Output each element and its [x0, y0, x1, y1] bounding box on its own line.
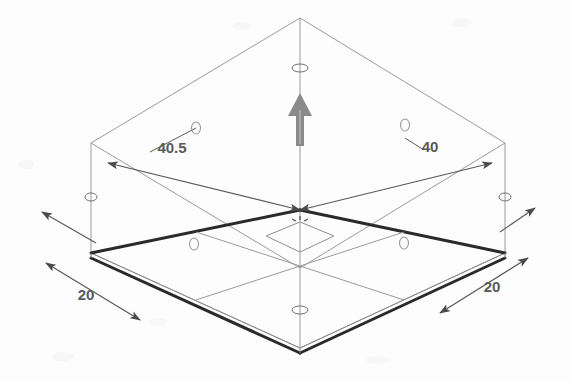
dim-label-20-left[interactable]: 20: [78, 286, 95, 303]
dim-label-40-5[interactable]: 40.5: [157, 139, 186, 156]
dimension-upper-left[interactable]: 40.5: [108, 128, 300, 210]
dim-line-40-5[interactable]: [108, 163, 300, 210]
cad-drawing-canvas[interactable]: 40.5 40 20 20: [0, 0, 572, 381]
vertical-drag-arrow[interactable]: [288, 93, 312, 146]
plate-top-face[interactable]: [91, 210, 505, 348]
dimension-upper-right[interactable]: 40: [300, 138, 492, 210]
hole-marker-upper-right[interactable]: [401, 119, 410, 131]
dim-line-40[interactable]: [300, 163, 492, 210]
dim-witness-left-upper: [42, 212, 96, 243]
drag-arrow-highlight: [299, 110, 301, 144]
dim-label-20-right[interactable]: 20: [484, 278, 501, 295]
plate-top-outline[interactable]: [91, 210, 505, 348]
cad-viewport[interactable]: 40.5 40 20 20: [0, 0, 572, 381]
dim-label-40[interactable]: 40: [422, 138, 439, 155]
